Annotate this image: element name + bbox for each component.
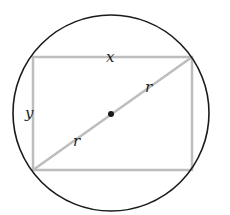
width-label: x [106, 48, 115, 66]
height-label: y [24, 104, 34, 122]
inscribed-rectangle-diagram: x y r r [0, 0, 230, 215]
radius-label-lower: r [73, 132, 81, 150]
center-point [108, 111, 114, 117]
radius-label-upper: r [145, 78, 153, 96]
